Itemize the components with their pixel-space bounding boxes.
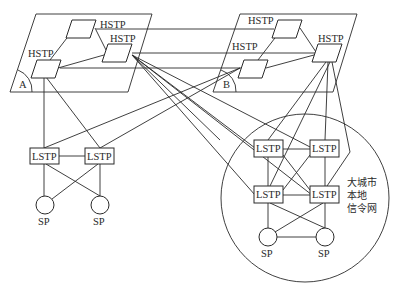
hstp-b-right[interactable] bbox=[312, 44, 342, 62]
sp-city-1[interactable] bbox=[259, 228, 277, 246]
plane-a-label: A bbox=[19, 79, 27, 90]
hstp-b-left[interactable] bbox=[238, 60, 268, 78]
lstp-city-bottom-right-label: LSTP bbox=[312, 189, 337, 200]
lstp-city-top-right-label: LSTP bbox=[312, 143, 337, 154]
connection-lines bbox=[44, 28, 350, 237]
hstp-b-top[interactable] bbox=[272, 20, 302, 38]
city-label-line-2: 本地 bbox=[347, 189, 367, 201]
hstp-a-top-label: HSTP bbox=[100, 19, 126, 30]
city-label-line-1: 大城市 bbox=[347, 176, 377, 188]
lstp-city-top-left-label: LSTP bbox=[256, 143, 281, 154]
hstp-b-top-label: HSTP bbox=[248, 15, 274, 26]
hstp-a-left-label: HSTP bbox=[28, 48, 54, 59]
hstp-a-right-label: HSTP bbox=[110, 33, 136, 44]
lstp-city-bottom-left-label: LSTP bbox=[256, 189, 281, 200]
city-network: LSTP LSTP LSTP LSTP SP SP 大城市 本地 信令网 bbox=[221, 114, 389, 282]
signaling-network-diagram: A HSTP HSTP HSTP B HSTP HSTP HSTP LSTP L… bbox=[0, 0, 394, 283]
plane-b-label: B bbox=[223, 79, 230, 90]
hstp-a-top[interactable] bbox=[66, 20, 96, 38]
sp-left-2[interactable] bbox=[91, 196, 109, 214]
hstp-b-right-label: HSTP bbox=[318, 33, 344, 44]
hstp-a-right[interactable] bbox=[102, 44, 132, 62]
hstp-b-left-label: HSTP bbox=[232, 41, 258, 52]
sp-city-1-label: SP bbox=[261, 248, 273, 259]
sp-left-1[interactable] bbox=[36, 196, 54, 214]
hstp-a-left[interactable] bbox=[31, 60, 61, 78]
sp-city-2-label: SP bbox=[318, 248, 330, 259]
sp-left-1-label: SP bbox=[38, 216, 50, 227]
plane-a: A HSTP HSTP HSTP bbox=[10, 14, 152, 92]
sp-city-2[interactable] bbox=[316, 228, 334, 246]
sp-left-2-label: SP bbox=[93, 216, 105, 227]
lstp-left-1-label: LSTP bbox=[32, 151, 57, 162]
city-label-line-3: 信令网 bbox=[347, 202, 377, 214]
left-lstp-region: LSTP LSTP SP SP bbox=[30, 148, 114, 227]
lstp-left-2-label: LSTP bbox=[87, 151, 112, 162]
